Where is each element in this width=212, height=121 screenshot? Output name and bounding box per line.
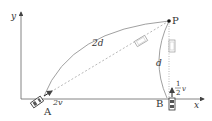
x-axis-label: x [194, 100, 199, 110]
car-mid-chord-icon [134, 35, 147, 46]
point-a-label: A [43, 106, 52, 117]
point-p-label: P [172, 15, 179, 26]
car-mid-vertical-icon [169, 40, 175, 52]
distance-2d-label: 2d [91, 38, 104, 48]
y-axis-label: y [10, 11, 17, 21]
distance-d-label: d [156, 58, 162, 68]
velocity-b-num: 1 [176, 80, 180, 88]
diagram-canvas: y x P A B 2v 1 2 v 2d d [0, 0, 212, 121]
velocity-b-var: v [182, 85, 186, 93]
velocity-b-den: 2 [176, 89, 180, 97]
car-b-icon [169, 98, 175, 110]
dashed-line-a-to-p [44, 21, 169, 96]
point-b-label: B [156, 98, 163, 109]
car-a-icon [30, 96, 43, 108]
velocity-a-label: 2v [52, 98, 63, 107]
point-p [167, 19, 171, 23]
